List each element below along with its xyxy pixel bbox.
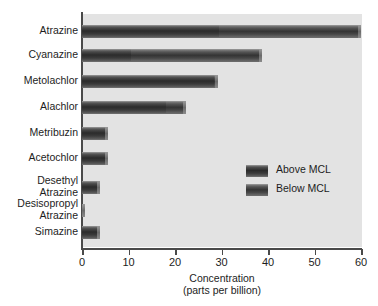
y-axis-tick-label: Desisopropyl Atrazine — [2, 198, 78, 221]
x-axis-tick-mark — [361, 249, 363, 255]
x-axis-tick-label: 20 — [160, 256, 190, 268]
y-axis-tick-label: Cyanazine — [2, 49, 78, 61]
x-axis-tick-label: 40 — [253, 256, 283, 268]
bar-group — [82, 101, 361, 114]
x-axis-tick-label: 10 — [114, 256, 144, 268]
y-axis-tick-label: Acetochlor — [2, 152, 78, 164]
legend-swatch-below-mcl — [246, 184, 268, 196]
legend-label: Below MCL — [276, 182, 330, 194]
bar-end-cap — [97, 226, 100, 239]
bar-segment-above-mcl — [82, 101, 166, 114]
x-axis-tick-mark — [129, 249, 131, 255]
bar-end-cap — [183, 101, 186, 114]
legend-label: Above MCL — [276, 163, 331, 175]
bar-group — [82, 75, 361, 88]
x-axis-tick-mark — [82, 249, 84, 255]
x-axis-tick-label: 0 — [67, 256, 97, 268]
legend-swatch-above-mcl — [246, 165, 268, 177]
bar-group — [82, 25, 361, 38]
bar-end-cap — [105, 152, 108, 165]
bar-chart: AtrazineCyanazineMetolachlorAlachlorMetr… — [0, 0, 378, 306]
y-axis-tick-label: Desethyl Atrazine — [2, 175, 78, 198]
bar-segment-below-mcl — [219, 25, 361, 38]
bar-group — [82, 49, 361, 62]
bar-end-cap — [105, 127, 108, 140]
x-axis-tick-mark — [268, 249, 270, 255]
y-axis-tick-label: Atrazine — [2, 25, 78, 37]
bar-segment-above-mcl — [82, 49, 131, 62]
y-axis-tick-label: Simazine — [2, 226, 78, 238]
x-axis-tick-label: 60 — [346, 256, 376, 268]
bar-group — [82, 226, 361, 239]
x-axis-tick-label: 30 — [207, 256, 237, 268]
x-axis-tick-mark — [222, 249, 224, 255]
bar-group — [82, 127, 361, 140]
y-axis-tick-label: Metolachlor — [2, 75, 78, 87]
bar-end-cap — [97, 181, 100, 194]
bar-end-cap — [82, 204, 85, 217]
x-axis-tick-mark — [315, 249, 317, 255]
x-axis-title-line2: (parts per billion) — [82, 284, 362, 296]
bar-end-cap — [259, 49, 262, 62]
y-axis-tick-label: Alachlor — [2, 101, 78, 113]
x-axis-tick-mark — [175, 249, 177, 255]
bar-segment-above-mcl — [82, 75, 214, 88]
x-axis-title: Concentration (parts per billion) — [82, 272, 362, 296]
bar-end-cap — [358, 25, 361, 38]
bar-group — [82, 204, 361, 217]
x-axis-title-line1: Concentration — [82, 272, 362, 284]
bar-segment-below-mcl — [131, 49, 262, 62]
x-axis-tick-label: 50 — [300, 256, 330, 268]
bar-end-cap — [215, 75, 218, 88]
y-axis-tick-label: Metribuzin — [2, 127, 78, 139]
bar-segment-above-mcl — [82, 25, 219, 38]
